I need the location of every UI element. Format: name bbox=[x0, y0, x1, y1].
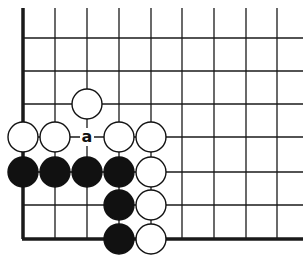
white-stone bbox=[8, 122, 38, 152]
white-stone bbox=[136, 122, 166, 152]
black-stone bbox=[40, 157, 70, 187]
white-stone bbox=[136, 224, 166, 254]
black-stone bbox=[8, 157, 38, 187]
black-stone bbox=[104, 224, 134, 254]
labels-layer: a bbox=[80, 127, 94, 146]
white-stone bbox=[72, 89, 102, 119]
white-stone bbox=[104, 122, 134, 152]
point-label-a: a bbox=[82, 127, 93, 146]
white-stone bbox=[136, 190, 166, 220]
white-stone bbox=[40, 122, 70, 152]
black-stone bbox=[104, 157, 134, 187]
go-board: a bbox=[0, 0, 303, 268]
black-stone bbox=[72, 157, 102, 187]
black-stone bbox=[104, 190, 134, 220]
white-stone bbox=[136, 157, 166, 187]
